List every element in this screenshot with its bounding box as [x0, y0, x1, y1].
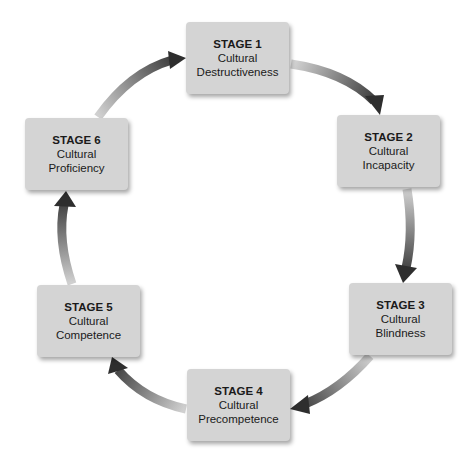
- stage-4-box: STAGE 4 Cultural Precompetence: [187, 369, 290, 441]
- stage-1-box: STAGE 1 Cultural Destructiveness: [186, 22, 289, 94]
- stage-6-box: STAGE 6 Cultural Proficiency: [25, 118, 128, 190]
- stage-2-title: STAGE 2: [364, 130, 412, 144]
- arrow-stage2-to-stage3: [395, 189, 417, 283]
- stage-4-line1: Cultural: [219, 398, 259, 412]
- stage-1-line1: Cultural: [218, 51, 258, 65]
- stage-5-title: STAGE 5: [64, 300, 112, 314]
- arrow-stage3-to-stage4: [290, 356, 370, 414]
- stage-5-line2: Competence: [56, 328, 121, 342]
- stage-6-line2: Proficiency: [48, 161, 104, 175]
- stage-2-box: STAGE 2 Cultural Incapacity: [337, 115, 440, 187]
- stage-5-line1: Cultural: [69, 314, 109, 328]
- stage-2-line2: Incapacity: [363, 158, 415, 172]
- arrow-stage4-to-stage5: [108, 357, 186, 409]
- stage-3-line1: Cultural: [381, 312, 421, 326]
- arrow-stage5-to-stage6: [54, 191, 76, 284]
- stage-3-title: STAGE 3: [376, 298, 424, 312]
- stage-3-line2: Blindness: [376, 326, 426, 340]
- stage-4-title: STAGE 4: [214, 384, 262, 398]
- stage-1-line2: Destructiveness: [197, 65, 279, 79]
- stage-4-line2: Precompetence: [198, 412, 279, 426]
- arrow-stage6-to-stage1: [98, 51, 186, 117]
- stage-2-line1: Cultural: [369, 144, 409, 158]
- stage-1-title: STAGE 1: [213, 37, 261, 51]
- stage-6-title: STAGE 6: [52, 133, 100, 147]
- stage-6-line1: Cultural: [57, 147, 97, 161]
- arrow-stage1-to-stage2: [291, 64, 384, 115]
- stage-3-box: STAGE 3 Cultural Blindness: [349, 283, 452, 355]
- stage-5-box: STAGE 5 Cultural Competence: [37, 285, 140, 357]
